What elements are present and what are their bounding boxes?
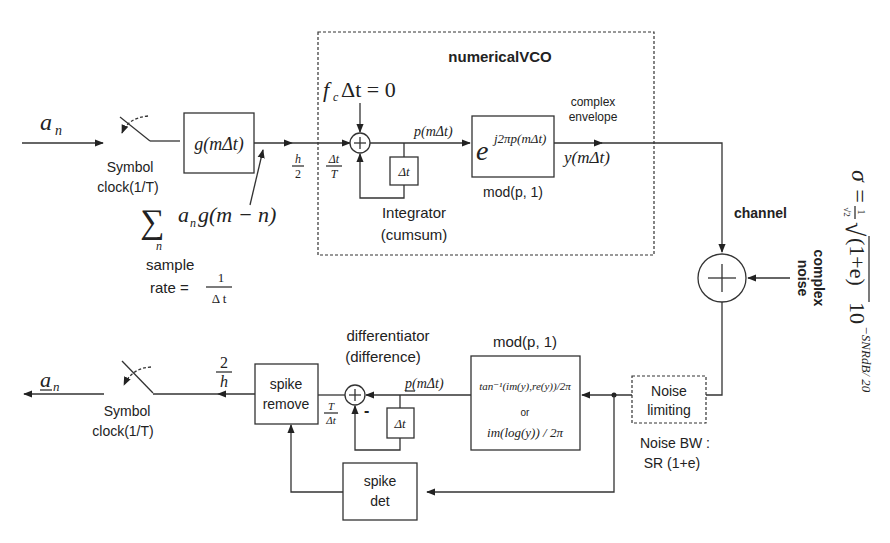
integrator-sum-junction bbox=[350, 133, 370, 153]
integrator-label-2: (cumsum) bbox=[381, 226, 448, 243]
diff-sum-junction bbox=[345, 385, 365, 405]
phase-signal-label: p(mΔt) bbox=[413, 124, 453, 140]
svg-text:Δ t: Δ t bbox=[212, 291, 227, 306]
svg-text:a: a bbox=[40, 367, 51, 392]
svg-text:f: f bbox=[323, 77, 332, 102]
differentiator-label-1: differentiator bbox=[346, 327, 429, 344]
gain-h-over-2: h 2 bbox=[292, 152, 304, 181]
spike-det-to-remove bbox=[291, 425, 343, 492]
svg-text:Δt = 0: Δt = 0 bbox=[341, 77, 396, 102]
switch-label-rx-1: Symbol bbox=[104, 403, 151, 419]
demod-or: or bbox=[521, 407, 531, 418]
pulse-filter-label: g(mΔt) bbox=[194, 134, 244, 155]
symbol-clock-switch-rx bbox=[122, 361, 153, 393]
noise-limiting-label-2: limiting bbox=[647, 402, 691, 418]
to-channel-line bbox=[600, 143, 722, 252]
demod-line-1: tan⁻¹(im(y),re(y))/2π bbox=[479, 380, 571, 393]
gain-2-over-h: 2 h bbox=[216, 354, 232, 390]
gain-T-over-dt: T Δt bbox=[324, 400, 338, 426]
svg-text:n: n bbox=[53, 379, 60, 394]
svg-text:h: h bbox=[220, 373, 228, 390]
svg-text:2: 2 bbox=[295, 167, 301, 181]
output-signal-label: y(mΔt) bbox=[562, 148, 610, 167]
envelope-label-2: envelope bbox=[569, 110, 618, 124]
svg-text:2: 2 bbox=[220, 354, 228, 371]
demod-title: mod(p, 1) bbox=[493, 333, 557, 350]
diff-delay-label: Δt bbox=[393, 416, 406, 431]
svg-text:T: T bbox=[331, 167, 339, 181]
svg-text:noise: noise bbox=[795, 260, 811, 297]
svg-text:complex: complex bbox=[811, 250, 827, 307]
integrator-label-1: Integrator bbox=[382, 204, 446, 221]
svg-text:√2: √2 bbox=[842, 207, 852, 216]
svg-text:∑: ∑ bbox=[140, 203, 164, 241]
noise-limiting-label-1: Noise bbox=[651, 383, 687, 399]
svg-text:e: e bbox=[476, 135, 488, 166]
symbol-clock-switch-tx bbox=[120, 116, 180, 141]
svg-text:j2πp(mΔt): j2πp(mΔt) bbox=[492, 131, 546, 146]
svg-text:10: 10 bbox=[845, 302, 870, 324]
svg-text:T: T bbox=[328, 400, 335, 412]
channel-out-line bbox=[706, 302, 722, 395]
svg-text:1: 1 bbox=[218, 270, 225, 285]
channel-label: channel bbox=[734, 205, 787, 221]
svg-text:g(m − n): g(m − n) bbox=[198, 202, 276, 227]
noise-bw-label-1: Noise BW : bbox=[640, 435, 710, 451]
switch-label-rx-2: clock(1/T) bbox=[92, 423, 153, 439]
spike-det-box bbox=[343, 463, 417, 520]
noise-bw-label-2: SR (1+e) bbox=[644, 455, 700, 471]
integrator-delay-label: Δt bbox=[397, 164, 410, 179]
switch-rotation-icon bbox=[122, 116, 148, 133]
svg-text:a: a bbox=[40, 109, 52, 135]
spike-remove-box bbox=[255, 364, 318, 424]
svg-text:Δt: Δt bbox=[328, 152, 340, 166]
diff-signal-label: p(mΔt) bbox=[404, 376, 444, 392]
svg-text:σ =: σ = bbox=[847, 170, 873, 204]
envelope-label-1: complex bbox=[571, 95, 616, 109]
svg-text:1: 1 bbox=[856, 210, 867, 215]
spike-remove-label-2: remove bbox=[263, 396, 310, 412]
svg-text:−SNRdB/ 20: −SNRdB/ 20 bbox=[859, 326, 874, 393]
svg-text:n: n bbox=[55, 123, 62, 138]
sum-expression: ∑ a n g(m − n) n bbox=[140, 202, 276, 253]
svg-text:h: h bbox=[295, 152, 301, 166]
spike-det-label-1: spike bbox=[364, 473, 397, 489]
switch-rotation-icon bbox=[124, 367, 151, 385]
sample-rate: rate = 1 Δ t bbox=[150, 270, 232, 306]
spike-det-label-2: det bbox=[370, 493, 390, 509]
switch-label-tx-2: clock(1/T) bbox=[97, 179, 158, 195]
block-diagram: a n Symbol clock(1/T) g(mΔt) h 2 Δt T ∑ … bbox=[0, 0, 890, 543]
complex-noise-label: complex noise bbox=[795, 250, 827, 307]
channel-sum-junction bbox=[698, 254, 746, 302]
svg-text:(1+e): (1+e) bbox=[845, 238, 870, 286]
demod-line-2: im(log(y)) / 2π bbox=[487, 425, 563, 440]
mod-label-vco: mod(p, 1) bbox=[483, 184, 543, 200]
svg-text:a: a bbox=[178, 202, 189, 227]
spike-remove-label-1: spike bbox=[270, 376, 303, 392]
svg-text:n: n bbox=[190, 216, 196, 230]
switch-label-tx-1: Symbol bbox=[107, 159, 154, 175]
sigma-formula: σ = 1 √2 √ (1+e) 10 −SNRdB/ 20 bbox=[840, 170, 874, 393]
fc-offset-label: f c Δt = 0 bbox=[323, 77, 396, 104]
input-symbol: a n bbox=[40, 109, 62, 138]
svg-text:Δt: Δt bbox=[325, 414, 336, 426]
vco-title: numericalVCO bbox=[448, 48, 552, 65]
svg-text:rate =: rate = bbox=[150, 279, 189, 296]
sample-label: sample bbox=[146, 256, 194, 273]
svg-text:c: c bbox=[333, 90, 339, 104]
svg-text:n: n bbox=[156, 239, 162, 253]
minus-sign: - bbox=[364, 402, 369, 419]
gain-dt-over-T: Δt T bbox=[326, 152, 342, 181]
svg-text:√: √ bbox=[840, 222, 869, 237]
differentiator-label-2: (difference) bbox=[345, 348, 421, 365]
output-symbol: a n bbox=[40, 367, 60, 394]
